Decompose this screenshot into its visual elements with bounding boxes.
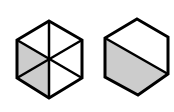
hexagon-left <box>17 21 82 98</box>
hexagon-diagram <box>0 0 174 112</box>
hexagon-right <box>105 19 168 95</box>
shaded-half <box>105 38 168 95</box>
